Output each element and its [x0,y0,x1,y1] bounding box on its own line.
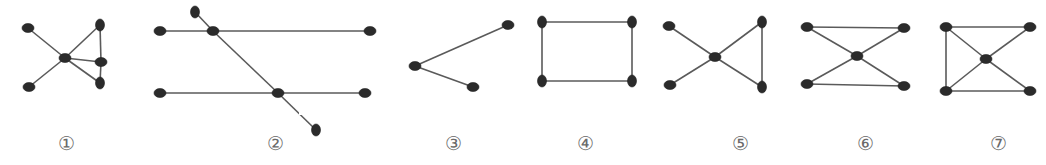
graph-figure [0,0,1046,165]
graph-2-label: ② [260,130,290,156]
graph-node [22,24,34,33]
graph-2-nodes [154,6,376,136]
graph-edge [715,57,762,87]
graph-node [191,6,200,18]
graph-edge [807,27,857,56]
graph-node [898,24,910,33]
graph-node [801,80,813,89]
graph-edge [669,26,715,57]
graph-node [359,89,371,98]
graph-node [898,82,910,91]
graph-4-edges [542,22,632,81]
edges-layer [28,12,1030,130]
graph-node [1024,23,1036,32]
graph-edge [213,31,278,93]
graph-node [940,23,952,32]
graph-7-label: ⑦ [983,130,1013,156]
graph-node [95,58,107,67]
graph-edge [807,56,857,84]
graph-edge [807,27,904,28]
graph-node [23,83,35,92]
graph-edge [65,25,100,58]
graph-edge [278,93,316,130]
graph-node [1024,87,1036,96]
graph-node [851,52,863,61]
graph-node [538,75,547,87]
graph-node [59,54,71,63]
graph-node [96,77,105,89]
graph-node [758,16,767,28]
graph-node [96,19,105,31]
graph-node [312,124,321,136]
graph-6-label: ⑥ [850,130,880,156]
graph-node [628,16,637,28]
graph-node [663,22,675,31]
graph-node [940,87,952,96]
graph-edge [415,25,508,66]
graph-3-edges [415,25,508,87]
graph-5-nodes [663,16,767,93]
graph-edge [715,22,762,57]
graph-node [538,16,547,28]
graph-4-label: ④ [570,130,600,156]
graph-edge [857,56,904,86]
graph-node [154,27,166,36]
graph-edge [670,57,715,85]
graph-node [467,83,479,92]
nodes-layer [22,6,1036,136]
graph-node [207,27,219,36]
graph-node [409,62,421,71]
graph-edge [986,59,1030,91]
graph-4-nodes [538,16,637,87]
graph-edge [29,58,65,87]
graph-3-label: ③ [438,130,468,156]
edge-gap [299,111,303,115]
graph-edge [415,66,473,87]
graph-node [709,53,721,62]
graph-node [801,23,813,32]
graph-node [980,55,992,64]
graph-node [502,21,514,30]
graph-edge [28,28,65,58]
graph-edge [986,27,1030,59]
graph-1-label: ① [51,130,81,156]
graph-3-nodes [409,21,514,92]
graph-node [154,89,166,98]
graph-edge [807,84,904,86]
graph-edge [946,59,986,91]
graph-node [628,75,637,87]
graph-node [364,27,376,36]
graph-2-edges [160,12,370,130]
graph-5-label: ⑤ [725,130,755,156]
graph-edge [857,28,904,56]
graph-node [272,89,284,98]
graph-node [758,81,767,93]
graph-node [664,81,676,90]
graph-edge [946,27,986,59]
